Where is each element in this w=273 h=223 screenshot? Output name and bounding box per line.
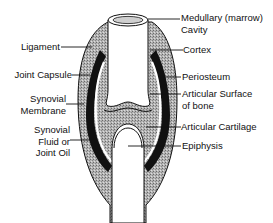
lower-bone [112, 124, 144, 223]
label-ligament: Ligament [21, 41, 60, 53]
label-articular-surface: Articular Surface of bone [182, 88, 252, 111]
label-medullary-cavity: Medullary (marrow) Cavity [181, 12, 263, 35]
label-synovial-membrane: Synovial Membrane [21, 93, 66, 116]
synovial-joint-diagram: Ligament Joint Capsule Synovial Membrane… [0, 0, 273, 223]
label-periosteum: Periosteum [182, 71, 230, 83]
label-articular-cartilage: Articular Cartilage [181, 121, 257, 133]
upper-bone [106, 20, 150, 106]
label-cortex: Cortex [183, 44, 211, 56]
medullary-cavity-opening [113, 16, 143, 23]
label-epiphysis: Epiphysis [182, 140, 223, 152]
label-synovial-fluid: Synovial Fluid or Joint Oil [34, 124, 70, 159]
label-joint-capsule: Joint Capsule [14, 69, 72, 81]
